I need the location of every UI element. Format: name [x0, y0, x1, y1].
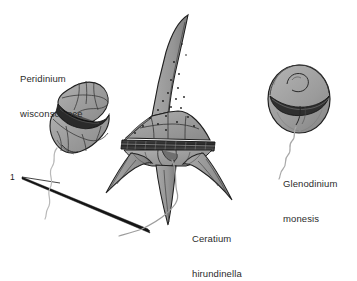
label-peridinium-line1: Peridinium	[20, 73, 83, 85]
scale-number: 1	[10, 172, 15, 182]
label-glenodinium-line2: monesis	[283, 213, 337, 225]
label-glenodinium-line1: Glenodinium	[283, 178, 337, 190]
label-ceratium-line2: hirundinella	[192, 268, 242, 280]
label-peridinium-line2: wisconscience	[20, 108, 83, 120]
label-glenodinium: Glenodinium monesis	[283, 155, 337, 236]
label-peridinium: Peridinium wisconscience	[20, 50, 83, 131]
label-ceratium-line1: Ceratium	[192, 233, 242, 245]
glenodinium-body	[268, 65, 330, 133]
label-ceratium: Ceratium hirundinella	[192, 210, 242, 281]
